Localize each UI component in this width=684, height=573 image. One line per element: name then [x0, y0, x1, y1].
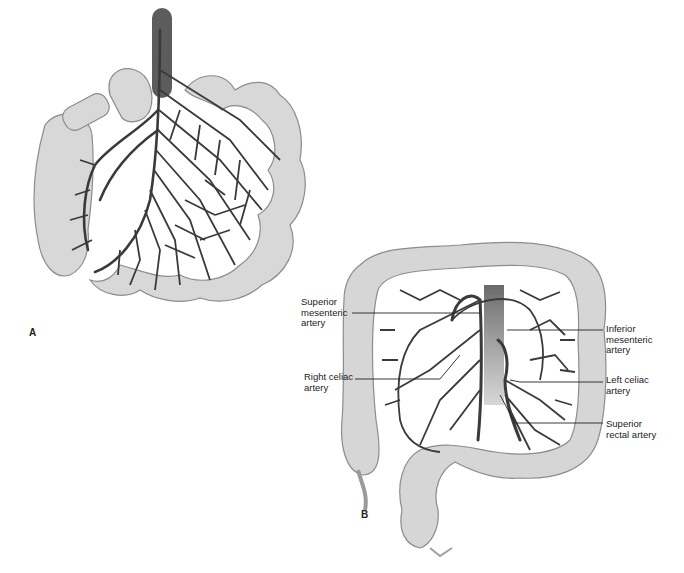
- anatomy-figure: [0, 0, 684, 573]
- panel-label-b: B: [361, 509, 368, 520]
- panel-label-a: A: [29, 327, 36, 338]
- panel-a-illustration: [34, 8, 305, 301]
- panel-b-illustration: [342, 242, 606, 556]
- label-right-celiac-artery: Right celiac artery: [304, 372, 353, 393]
- label-inferior-mesenteric-artery: Inferior mesenteric artery: [606, 324, 652, 356]
- label-left-celiac-artery: Left celiac artery: [606, 375, 649, 396]
- label-superior-mesenteric-artery: Superior mesenteric artery: [301, 297, 347, 329]
- label-superior-rectal-artery: Superior rectal artery: [606, 419, 656, 440]
